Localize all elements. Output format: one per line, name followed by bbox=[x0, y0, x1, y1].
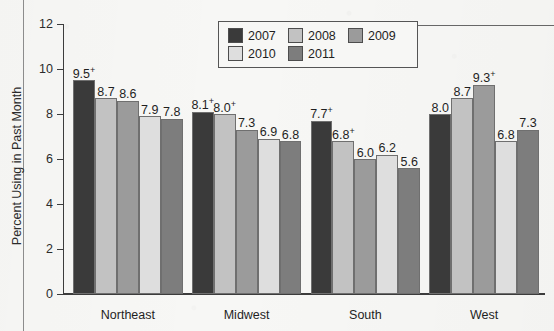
x-axis-group-label: Midwest bbox=[224, 308, 270, 322]
bar-2008-west[interactable]: 8.7 bbox=[451, 98, 473, 294]
y-axis-tick: 6 bbox=[57, 159, 63, 160]
bar-value-label: 9.3+ bbox=[473, 72, 496, 85]
bar-value-label: 8.7 bbox=[97, 86, 114, 99]
y-axis-tick-label: 10 bbox=[39, 62, 53, 76]
bar-2011-midwest[interactable]: 6.8 bbox=[280, 141, 302, 294]
legend-item-2008[interactable]: 2008 bbox=[288, 28, 348, 43]
bar-2007-west[interactable]: 8.0 bbox=[429, 114, 451, 294]
y-axis-tick-label: 6 bbox=[46, 152, 53, 166]
y-axis-tick-label: 2 bbox=[46, 242, 53, 256]
y-axis-tick-label: 4 bbox=[46, 197, 53, 211]
y-axis-tick: 4 bbox=[57, 204, 63, 205]
bar-2010-midwest[interactable]: 6.9 bbox=[258, 139, 280, 294]
bar-value-label: 7.8 bbox=[163, 106, 180, 119]
bar-2007-south[interactable]: 7.7+ bbox=[311, 121, 333, 294]
legend-item-2011[interactable]: 2011 bbox=[288, 46, 348, 61]
y-axis-tick: 12 bbox=[57, 24, 63, 25]
y-axis-title: Percent Using in Past Month bbox=[10, 86, 24, 244]
y-axis-tick-label: 12 bbox=[39, 17, 53, 31]
bar-2011-south[interactable]: 5.6 bbox=[398, 168, 420, 294]
y-axis-line bbox=[63, 24, 64, 294]
bar-2011-west[interactable]: 7.3 bbox=[517, 130, 539, 294]
bar-value-label: 6.8 bbox=[497, 129, 514, 142]
bar-value-label: 7.9 bbox=[141, 104, 158, 117]
bar-value-label: 8.1+ bbox=[191, 99, 214, 112]
bar-value-label: 6.8 bbox=[282, 129, 299, 142]
bar-2009-west[interactable]: 9.3+ bbox=[473, 85, 495, 294]
bar-value-label: 8.0 bbox=[432, 102, 449, 115]
bar-2010-west[interactable]: 6.8 bbox=[495, 141, 517, 294]
bar-value-label: 8.6 bbox=[119, 88, 136, 101]
x-axis-group-label: West bbox=[470, 308, 498, 322]
x-axis-group-label: South bbox=[349, 308, 382, 322]
chart-page: Percent Using in Past Month 024681012 9.… bbox=[0, 0, 554, 331]
y-axis-tick: 0 bbox=[57, 294, 63, 295]
bar-2009-midwest[interactable]: 7.3 bbox=[236, 130, 258, 294]
bar-2009-south[interactable]: 6.0 bbox=[354, 159, 376, 294]
legend-label: 2007 bbox=[248, 29, 276, 43]
x-axis-group-label: Northeast bbox=[101, 308, 155, 322]
bar-value-label: 8.7 bbox=[453, 86, 470, 99]
y-axis-tick-label: 0 bbox=[46, 287, 53, 301]
bar-2009-northeast[interactable]: 8.6 bbox=[117, 101, 139, 295]
legend-swatch-icon bbox=[288, 46, 303, 61]
bar-2011-northeast[interactable]: 7.8 bbox=[161, 119, 183, 295]
bar-value-label: 7.7+ bbox=[310, 108, 333, 121]
bar-value-label: 6.2 bbox=[379, 142, 396, 155]
bar-value-label: 8.0+ bbox=[213, 102, 236, 115]
legend-item-2009[interactable]: 2009 bbox=[348, 28, 408, 43]
bar-value-label: 6.8+ bbox=[332, 129, 355, 142]
bar-2010-south[interactable]: 6.2 bbox=[376, 155, 398, 295]
legend-swatch-icon bbox=[348, 28, 363, 43]
bar-value-label: 7.3 bbox=[238, 117, 255, 130]
y-axis-tick-label: 8 bbox=[46, 107, 53, 121]
bar-2008-south[interactable]: 6.8+ bbox=[332, 141, 354, 294]
y-axis-tick: 8 bbox=[57, 114, 63, 115]
bar-2007-northeast[interactable]: 9.5+ bbox=[73, 80, 95, 294]
legend-swatch-icon bbox=[228, 46, 243, 61]
bar-value-label: 6.0 bbox=[357, 147, 374, 160]
bar-group: 9.5+8.78.67.97.8Northeast bbox=[73, 24, 183, 294]
bar-2010-northeast[interactable]: 7.9 bbox=[139, 116, 161, 294]
bar-2007-midwest[interactable]: 8.1+ bbox=[192, 112, 214, 294]
y-axis-tick: 2 bbox=[57, 249, 63, 250]
legend-swatch-icon bbox=[228, 28, 243, 43]
y-axis-tick: 10 bbox=[57, 69, 63, 70]
bar-group: 8.08.79.3+6.87.3West bbox=[429, 24, 539, 294]
bar-value-label: 6.9 bbox=[260, 126, 277, 139]
bar-value-label: 5.6 bbox=[401, 156, 418, 169]
legend-label: 2010 bbox=[248, 47, 276, 61]
bar-value-label: 7.3 bbox=[519, 117, 536, 130]
legend-label: 2008 bbox=[308, 29, 336, 43]
bar-2008-midwest[interactable]: 8.0+ bbox=[214, 114, 236, 294]
legend-label: 2009 bbox=[368, 29, 396, 43]
bar-value-label: 9.5+ bbox=[73, 68, 96, 81]
legend-item-2010[interactable]: 2010 bbox=[228, 46, 288, 61]
bar-2008-northeast[interactable]: 8.7 bbox=[95, 98, 117, 294]
legend-item-2007[interactable]: 2007 bbox=[228, 28, 288, 43]
legend-swatch-icon bbox=[288, 28, 303, 43]
chart-legend: 20072008200920102011 bbox=[218, 21, 418, 68]
legend-label: 2011 bbox=[308, 47, 335, 61]
